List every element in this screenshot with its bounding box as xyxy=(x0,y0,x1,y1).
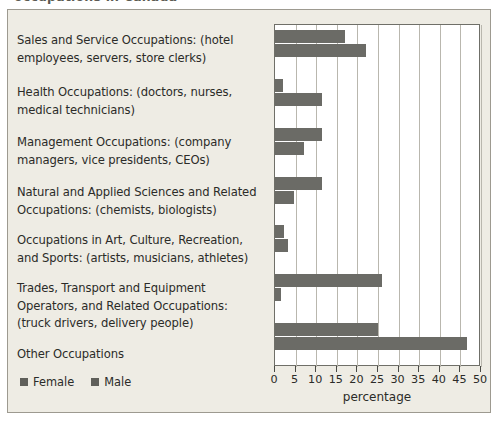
chart-figure: Sales and Service Occupations: (hotel em… xyxy=(7,9,491,413)
bar-female xyxy=(275,177,322,190)
bar-male xyxy=(275,239,288,252)
gridline xyxy=(440,25,441,367)
bar-male xyxy=(275,337,467,350)
x-axis-tick-label: 15 xyxy=(329,373,343,386)
x-axis-tick-label: 0 xyxy=(270,373,277,386)
x-axis-tick xyxy=(315,366,316,372)
x-axis-tick xyxy=(480,366,481,372)
x-axis-tick-label: 30 xyxy=(390,373,404,386)
x-axis-tick-label: 20 xyxy=(349,373,363,386)
cut-off-caption-text: occupations in Canada xyxy=(14,0,177,4)
legend-label-female: Female xyxy=(33,375,74,389)
x-axis-tick xyxy=(418,366,419,372)
bar-male xyxy=(275,93,322,106)
x-axis-tick xyxy=(295,366,296,372)
x-axis-tick-label: 40 xyxy=(432,373,446,386)
gridline xyxy=(399,25,400,367)
x-axis-tick-label: 10 xyxy=(308,373,322,386)
chart-legend: Female Male xyxy=(17,372,138,392)
x-axis-tick xyxy=(336,366,337,372)
bar-male xyxy=(275,288,281,301)
x-axis-tick-label: 25 xyxy=(370,373,384,386)
x-axis-tick-label: 50 xyxy=(473,373,487,386)
legend-swatch-female-icon xyxy=(20,378,28,386)
gridline xyxy=(419,25,420,367)
gridline xyxy=(337,25,338,367)
category-label: Occupations in Art, Culture, Recreation,… xyxy=(17,232,265,267)
bar-female xyxy=(275,274,382,287)
bar-female xyxy=(275,128,322,141)
x-axis-title: percentage xyxy=(274,390,480,404)
x-axis-tick-label: 5 xyxy=(291,373,298,386)
x-axis-tick xyxy=(274,366,275,372)
x-axis-tick xyxy=(356,366,357,372)
gridline xyxy=(460,25,461,367)
x-axis-tick-label: 45 xyxy=(452,373,466,386)
category-label: Management Occupations: (company manager… xyxy=(17,134,265,169)
category-label-column: Sales and Service Occupations: (hotel em… xyxy=(17,14,265,366)
category-label: Natural and Applied Sciences and Related… xyxy=(17,184,265,219)
category-label: Other Occupations xyxy=(17,346,265,364)
category-label: Health Occupations: (doctors, nurses, me… xyxy=(17,84,265,119)
legend-entry-male: Male xyxy=(91,375,131,389)
x-axis-tick xyxy=(377,366,378,372)
x-axis-tick xyxy=(439,366,440,372)
category-label: Trades, Transport and Equipment Operator… xyxy=(17,280,265,333)
bar-male xyxy=(275,191,294,204)
x-axis-tick xyxy=(398,366,399,372)
plot-frame xyxy=(274,24,480,366)
plot-area: percentage 05101520253035404550 xyxy=(267,24,480,366)
gridline xyxy=(481,25,482,367)
x-axis-tick-label: 35 xyxy=(411,373,425,386)
gridline xyxy=(296,25,297,367)
bar-male xyxy=(275,142,304,155)
legend-swatch-male-icon xyxy=(91,378,99,386)
gridline xyxy=(316,25,317,367)
bar-female xyxy=(275,30,345,43)
legend-entry-female: Female xyxy=(20,375,74,389)
cut-off-caption: occupations in Canada xyxy=(0,0,499,8)
gridline xyxy=(378,25,379,367)
category-label: Sales and Service Occupations: (hotel em… xyxy=(17,32,265,67)
x-axis-tick xyxy=(459,366,460,372)
bar-male xyxy=(275,44,366,57)
bar-female xyxy=(275,79,283,92)
bar-female xyxy=(275,323,378,336)
legend-label-male: Male xyxy=(104,375,131,389)
bar-female xyxy=(275,225,284,238)
gridline xyxy=(357,25,358,367)
